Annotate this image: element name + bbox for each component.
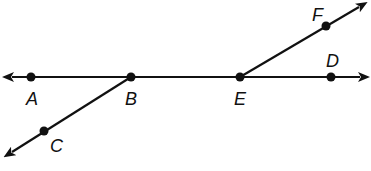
lines-layer: [12, 7, 360, 152]
point-e: [236, 73, 245, 82]
points-layer: [27, 22, 336, 136]
label-e: E: [234, 89, 247, 109]
point-b: [127, 73, 136, 82]
label-d: D: [326, 51, 339, 71]
label-b: B: [125, 89, 137, 109]
ray-EF: [240, 7, 359, 77]
geometry-diagram: ABEDFC: [0, 0, 371, 171]
point-c: [40, 127, 49, 136]
point-d: [327, 73, 336, 82]
labels-layer: ABEDFC: [25, 5, 339, 156]
label-f: F: [312, 5, 324, 25]
label-c: C: [50, 136, 64, 156]
label-a: A: [25, 89, 38, 109]
point-a: [27, 73, 36, 82]
